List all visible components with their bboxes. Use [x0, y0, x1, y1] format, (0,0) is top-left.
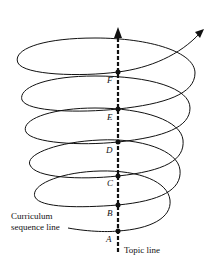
point-label-e: E	[107, 112, 113, 122]
curriculum-label-line2: sequence line	[11, 222, 60, 233]
point-label-a: A	[106, 234, 112, 244]
curriculum-label-line1: Curriculum	[11, 211, 60, 222]
point-d-dot	[116, 140, 121, 145]
topic-arrowhead-icon	[114, 27, 122, 38]
point-label-f: F	[107, 75, 113, 85]
point-label-b: B	[107, 208, 113, 218]
point-label-d: D	[106, 145, 113, 155]
curriculum-spiral	[17, 33, 200, 232]
topic-line-label: Topic line	[124, 245, 160, 256]
point-a-dot	[116, 229, 121, 234]
point-c-dot	[116, 174, 121, 179]
curriculum-line-label: Curriculum sequence line	[11, 211, 60, 233]
point-e-dot	[116, 107, 121, 112]
point-b-dot	[116, 203, 121, 208]
point-f-dot	[116, 70, 121, 75]
point-label-c: C	[107, 178, 113, 188]
